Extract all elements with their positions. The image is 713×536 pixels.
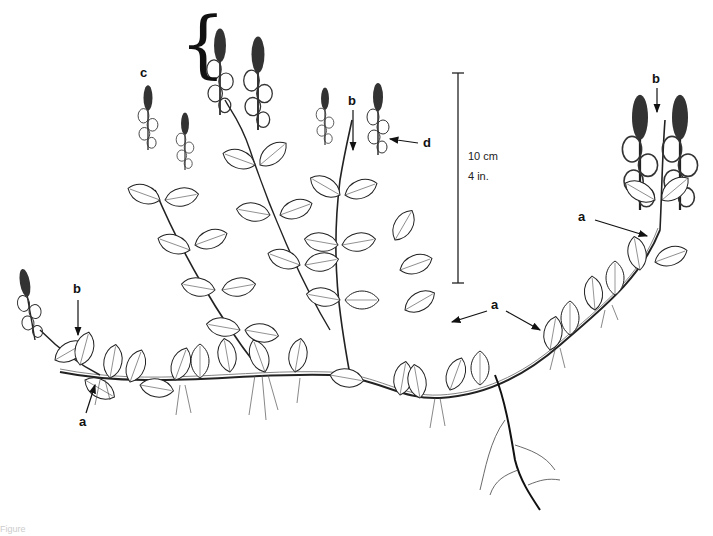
label-a-left: a	[79, 415, 86, 428]
label-a-center: a	[491, 298, 498, 311]
label-b-center: b	[348, 94, 356, 107]
figure-caption: Figure	[0, 524, 26, 534]
scale-imperial: 4 in.	[468, 170, 489, 182]
bracket-c: {	[180, 8, 226, 80]
label-a-right: a	[578, 210, 585, 223]
label-b-left: b	[73, 282, 81, 295]
label-c: c	[140, 66, 147, 79]
scale-metric: 10 cm	[468, 150, 498, 162]
label-b-right: b	[652, 72, 660, 85]
plant-drawing	[0, 0, 713, 536]
botanical-illustration: { c b a b d b a a 10 cm 4 in. Figure	[0, 0, 713, 536]
label-d: d	[423, 136, 431, 149]
